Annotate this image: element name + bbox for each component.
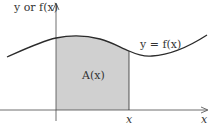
curve-label: y = f(x) bbox=[139, 38, 181, 51]
x-marker-label: x bbox=[126, 113, 133, 126]
y-axis-label: y or f(x) bbox=[13, 1, 58, 14]
x-axis-label: x bbox=[201, 113, 208, 126]
area-label: A(x) bbox=[81, 69, 105, 82]
area-under-curve-diagram: y or f(x) y = f(x) A(x) x x bbox=[0, 0, 215, 135]
